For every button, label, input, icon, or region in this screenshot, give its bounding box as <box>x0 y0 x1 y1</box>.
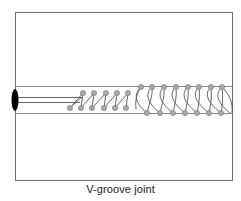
coil-node <box>149 84 154 89</box>
coil-node <box>173 84 178 89</box>
fibers <box>15 98 82 103</box>
frame <box>16 13 233 181</box>
coil-node <box>103 90 108 95</box>
coil-loop <box>160 87 173 113</box>
coil-node <box>91 90 96 95</box>
small-coil-spring <box>67 90 130 110</box>
coil-node <box>67 105 72 110</box>
coil-node <box>194 110 199 115</box>
coil-node <box>208 84 213 89</box>
coil-node <box>78 105 83 110</box>
coil-lead <box>72 97 82 106</box>
coil-node <box>182 110 187 115</box>
coil-node <box>157 110 162 115</box>
coil-node <box>123 105 128 110</box>
coil-node <box>114 90 119 95</box>
coil-node <box>161 84 166 89</box>
coil-loop <box>148 87 160 113</box>
coil-node <box>125 90 130 95</box>
coil-node <box>144 110 149 115</box>
v-groove-joint-diagram <box>0 0 241 201</box>
coil-node <box>89 105 94 110</box>
fiber-end-cap-icon <box>12 89 19 111</box>
coil-loop <box>221 87 223 113</box>
coil-node <box>206 110 211 115</box>
coil-node <box>219 84 224 89</box>
coil-node <box>80 90 85 95</box>
coil-loop <box>147 87 152 113</box>
coil-node <box>101 105 106 110</box>
coil-loop <box>222 87 232 113</box>
large-coil-spring <box>136 84 232 115</box>
coil-loop <box>136 87 147 113</box>
coil-node <box>185 84 190 89</box>
coil-node <box>112 105 117 110</box>
coil-node <box>170 110 175 115</box>
coil-node <box>218 110 223 115</box>
coil-node <box>196 84 201 89</box>
coil-loop <box>218 87 230 113</box>
coil-node <box>138 84 143 89</box>
figure-caption: V-groove joint <box>0 183 241 195</box>
